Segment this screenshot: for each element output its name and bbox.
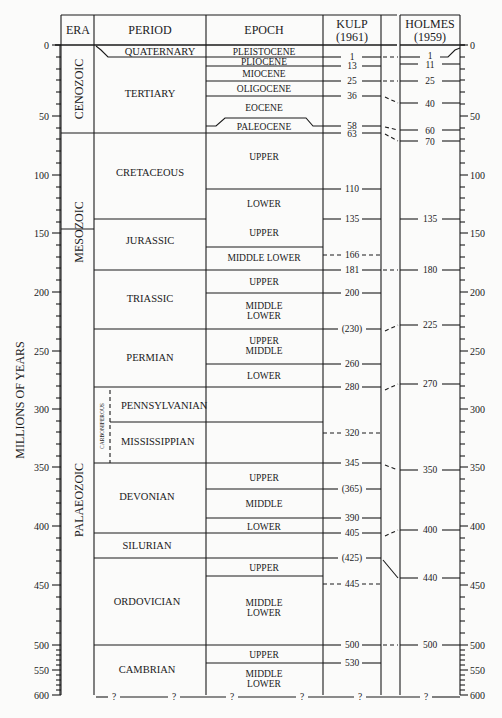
epoch-permian-lower: LOWER (247, 371, 281, 381)
svg-text:280: 280 (345, 382, 360, 392)
svg-text:40: 40 (425, 99, 435, 109)
svg-text:550: 550 (34, 665, 49, 676)
header-epoch: EPOCH (244, 23, 284, 37)
epoch-miocene: MIOCENE (242, 69, 285, 79)
epoch-devonian-lower: LOWER (247, 522, 281, 532)
period-cretaceous: CRETACEOUS (116, 167, 184, 178)
period-devonian: DEVONIAN (119, 491, 175, 502)
svg-text:530: 530 (345, 658, 360, 668)
svg-text:150: 150 (470, 228, 485, 239)
svg-text:500: 500 (470, 640, 485, 651)
era-cenozoic: CENOZOIC (72, 59, 86, 120)
svg-text:350: 350 (470, 462, 485, 473)
svg-text:200: 200 (34, 287, 49, 298)
svg-text:500: 500 (345, 640, 360, 650)
svg-text:200: 200 (470, 287, 485, 298)
epoch-cretaceous-upper: UPPER (249, 152, 279, 162)
epoch-triassic-lower: LOWER (247, 311, 281, 321)
svg-text:?: ? (424, 692, 428, 702)
svg-text:250: 250 (470, 346, 485, 357)
column-headers: ERA PERIOD EPOCH KULP (1961) HOLMES (195… (66, 17, 455, 44)
svg-text:400: 400 (470, 521, 485, 532)
epoch-cambrian-middle: MIDDLE (246, 669, 283, 679)
epoch-jurassic-middle-lower: MIDDLE LOWER (227, 253, 301, 263)
correlation-lines (383, 57, 398, 645)
svg-text:?: ? (358, 692, 362, 702)
svg-text:550: 550 (470, 665, 485, 676)
svg-text:200: 200 (345, 288, 360, 298)
period-column: QUATERNARY TERTIARY CRETACEOUS JURASSIC … (94, 46, 323, 675)
epoch-paleocene: PALEOCENE (237, 122, 292, 132)
period-permian: PERMIAN (126, 352, 174, 363)
period-pennsylvanian: PENNSYLVANIAN (121, 400, 208, 411)
svg-text:225: 225 (423, 320, 438, 330)
epoch-permian-middle: MIDDLE (246, 346, 283, 356)
period-triassic: TRIASSIC (127, 293, 174, 304)
svg-text:270: 270 (423, 379, 438, 389)
svg-text:350: 350 (34, 462, 49, 473)
period-mississippian: MISSISSIPPIAN (121, 436, 195, 447)
svg-text:166: 166 (345, 250, 360, 260)
svg-text:0: 0 (44, 40, 49, 51)
period-jurassic: JURASSIC (126, 235, 174, 246)
svg-text:11: 11 (425, 60, 434, 70)
epoch-devonian-middle: MIDDLE (246, 499, 283, 509)
svg-text:135: 135 (345, 214, 360, 224)
svg-text:390: 390 (345, 513, 360, 523)
epoch-jurassic-upper: UPPER (249, 228, 279, 238)
svg-text:60: 60 (425, 126, 435, 136)
svg-text:500: 500 (423, 640, 438, 650)
epoch-oligocene: OLIGOCENE (237, 84, 292, 94)
epoch-pliocene: PLIOCENE (241, 57, 287, 67)
header-holmes: HOLMES (405, 17, 454, 31)
svg-text:?: ? (112, 692, 116, 702)
svg-text:70: 70 (425, 137, 435, 147)
epoch-triassic-middle: MIDDLE (246, 301, 283, 311)
svg-text:400: 400 (423, 525, 438, 535)
svg-text:100: 100 (34, 170, 49, 181)
epoch-cambrian-lower: LOWER (247, 679, 281, 689)
period-cambrian: CAMBRIAN (119, 664, 176, 675)
svg-text:600: 600 (470, 690, 485, 701)
svg-text:300: 300 (34, 404, 49, 415)
period-ordovician: ORDOVICIAN (114, 596, 181, 607)
period-silurian: SILURIAN (123, 540, 172, 551)
geologic-time-scale-chart: ERA PERIOD EPOCH KULP (1961) HOLMES (195… (0, 0, 502, 718)
svg-text:100: 100 (470, 170, 485, 181)
epoch-pleistocene: PLEISTOCENE (233, 47, 296, 57)
svg-text:(230): (230) (342, 324, 363, 335)
svg-text:345: 345 (345, 458, 360, 468)
holmes-column: 1 11 25 40 60 70 135 180 225 270 350 400… (400, 48, 460, 650)
svg-text:181: 181 (345, 265, 360, 275)
header-kulp-year: (1961) (336, 30, 368, 44)
epoch-cambrian-upper: UPPER (249, 650, 279, 660)
epoch-eocene: EOCENE (245, 103, 283, 113)
kulp-column: 1 13 25 36 58 63 110 135 166 181 200 (23… (323, 52, 381, 668)
header-kulp: KULP (336, 17, 368, 31)
svg-text:63: 63 (347, 129, 357, 139)
svg-text:0: 0 (470, 40, 475, 51)
epoch-column: PLEISTOCENE PLIOCENE MIOCENE OLIGOCENE E… (206, 47, 323, 689)
right-axis: 0 50 100 150 200 250 300 350 400 450 500… (460, 40, 485, 701)
y-axis-label: MILLIONS OF YEARS (13, 341, 27, 459)
header-holmes-year: (1959) (414, 30, 446, 44)
era-column: CENOZOIC MESOZOIC PALAEOZOIC (61, 59, 94, 537)
svg-text:350: 350 (423, 465, 438, 475)
svg-text:300: 300 (470, 404, 485, 415)
period-quaternary: QUATERNARY (125, 46, 196, 57)
epoch-ordovician-middle: MIDDLE (246, 598, 283, 608)
svg-text:110: 110 (345, 184, 359, 194)
svg-text:50: 50 (39, 111, 49, 122)
epoch-ordovician-lower: LOWER (247, 608, 281, 618)
epoch-devonian-upper: UPPER (249, 473, 279, 483)
epoch-cretaceous-lower: LOWER (247, 199, 281, 209)
svg-text:405: 405 (345, 528, 360, 538)
epoch-triassic-upper: UPPER (249, 277, 279, 287)
svg-text:135: 135 (423, 214, 438, 224)
svg-text:(425): (425) (342, 553, 363, 564)
header-period: PERIOD (128, 23, 172, 37)
svg-text:500: 500 (34, 640, 49, 651)
svg-text:13: 13 (347, 61, 357, 71)
svg-text:?: ? (230, 692, 234, 702)
period-carboniferous: CARBONIFEROUS (99, 403, 105, 449)
